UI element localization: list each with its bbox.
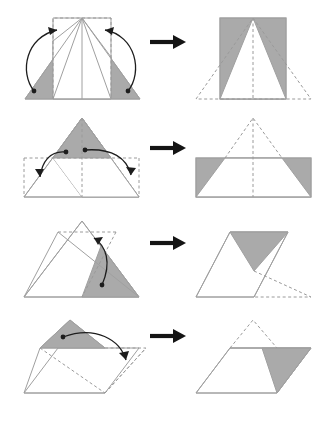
step-3-row (24, 221, 311, 297)
fold-diagram-canvas (0, 0, 336, 421)
step-4-row (24, 320, 311, 393)
step-1-transition-arrow (150, 35, 186, 49)
step-2-left-corner-dot (64, 150, 69, 155)
step-arrow-head-1 (173, 35, 186, 49)
step-4-result-ghost-apex (230, 320, 277, 348)
step-2-right-corner-dot (83, 148, 88, 153)
step-3-transition-arrow (150, 236, 186, 250)
step-1-row (25, 18, 311, 99)
step-4-after-panel (196, 320, 311, 393)
step-4-transition-arrow (150, 329, 186, 343)
step-1-before-panel (25, 18, 140, 99)
step-2-after-panel (196, 118, 311, 197)
fold-instruction-figure: Paper folding step sequence Four-step pa… (0, 0, 336, 421)
step-4-corner-dot (61, 335, 66, 340)
step-3-after-panel (196, 232, 311, 297)
step-2-row (24, 118, 311, 197)
step-arrow-head-3 (173, 236, 186, 250)
step-3-before-panel (24, 221, 139, 297)
step-1-right-corner-dot (126, 89, 131, 94)
step-1-left-corner-dot (32, 89, 37, 94)
step-4-before-panel (24, 320, 146, 393)
step-2-right-fold-arrowhead (126, 167, 136, 175)
step-1-after-panel (196, 18, 311, 99)
step-3-corner-dot (100, 283, 105, 288)
step-arrow-head-2 (173, 141, 186, 155)
step-arrow-head-4 (173, 329, 186, 343)
step-2-before-panel (24, 118, 139, 197)
step-2-transition-arrow (150, 141, 186, 155)
